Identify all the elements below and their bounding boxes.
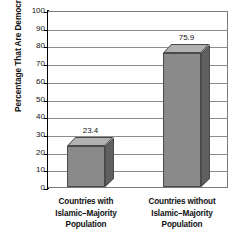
bar-front-face <box>67 146 105 187</box>
bar-top-face <box>67 137 113 146</box>
y-axis-tick <box>44 65 48 66</box>
y-axis-tick <box>44 30 48 31</box>
y-axis-tick-label: 20 <box>23 149 45 157</box>
y-axis-tick <box>44 171 48 172</box>
bar-value-label: 23.4 <box>81 127 101 135</box>
y-axis-tick-label: 100 <box>23 7 45 15</box>
y-axis-tick-label: 30 <box>23 131 45 139</box>
category-label-line: Islamic–Majority <box>134 208 230 220</box>
category-label-line: Islamic–Majority <box>38 208 134 220</box>
y-axis-tick <box>44 83 48 84</box>
category-label-line: Population <box>38 219 134 231</box>
bar <box>163 53 201 187</box>
y-axis-tick-label: 0 <box>23 184 45 192</box>
y-axis-tick <box>44 136 48 137</box>
category-label-line: Countries with <box>38 196 134 208</box>
bar-value-label: 75.9 <box>177 34 197 42</box>
y-axis-tick <box>44 47 48 48</box>
category-label-line: Countries without <box>134 196 230 208</box>
y-axis-tick-label: 40 <box>23 113 45 121</box>
bar-front-face <box>163 53 201 187</box>
y-axis-tick <box>44 12 48 13</box>
gridline <box>48 30 227 31</box>
y-axis-tick-label: 90 <box>23 25 45 33</box>
bar <box>67 146 105 187</box>
y-axis-tick-label: 70 <box>23 60 45 68</box>
y-axis-tick <box>44 189 48 190</box>
category-label-line: Population <box>134 219 230 231</box>
y-axis-tick <box>44 118 48 119</box>
y-axis-tick-label: 10 <box>23 166 45 174</box>
plot-area: 23.475.9 <box>48 11 228 188</box>
bar-side-face <box>105 137 114 187</box>
x-axis-category-label: Countries withIslamic–MajorityPopulation <box>38 196 134 231</box>
bar-chart: Percentage That Are Democratic 100908070… <box>0 0 239 243</box>
bar-top-face <box>163 44 209 53</box>
y-axis-tick-label: 60 <box>23 78 45 86</box>
y-axis-tick-label: 50 <box>23 96 45 104</box>
bar-side-face <box>201 44 210 187</box>
y-axis-tick-label: 80 <box>23 42 45 50</box>
y-axis-tick <box>44 154 48 155</box>
x-axis-category-label: Countries withoutIslamic–MajorityPopulat… <box>134 196 230 231</box>
y-axis-tick <box>44 101 48 102</box>
